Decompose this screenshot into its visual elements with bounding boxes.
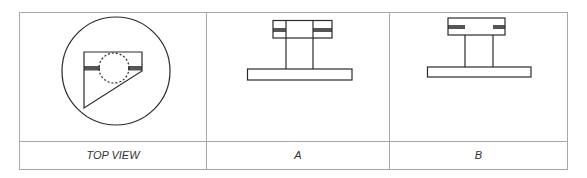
outer-circle	[62, 17, 170, 125]
left-band	[84, 66, 100, 71]
label-top-view: TOP VIEW	[20, 145, 206, 165]
hidden-hole-dashed	[99, 53, 129, 83]
b-left-band	[448, 25, 465, 29]
right-band	[128, 66, 142, 71]
label-view-b: B	[390, 145, 567, 165]
b-base-plate	[428, 67, 532, 77]
a-right-band	[313, 28, 332, 32]
a-base-plate	[248, 69, 353, 80]
view-b-drawing	[428, 18, 532, 77]
b-right-band	[493, 25, 505, 29]
a-left-band	[273, 28, 286, 32]
top-view-drawing	[62, 17, 170, 125]
triangular-plate-outline	[84, 52, 142, 108]
label-view-a: A	[207, 145, 389, 165]
view-a-drawing	[248, 21, 353, 81]
